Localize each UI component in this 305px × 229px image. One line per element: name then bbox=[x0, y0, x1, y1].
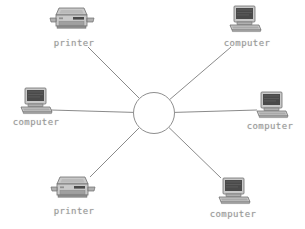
node-label: computer bbox=[247, 121, 294, 131]
computer-icon bbox=[255, 91, 289, 123]
node-label: printer bbox=[54, 38, 95, 48]
spoke-line bbox=[170, 47, 231, 99]
node-label: computer bbox=[13, 117, 60, 127]
spoke-line bbox=[175, 110, 257, 112]
spoke-line bbox=[88, 47, 139, 98]
central-hub[interactable] bbox=[133, 92, 175, 134]
spoke-line bbox=[90, 128, 139, 177]
computer-icon bbox=[217, 177, 251, 209]
computer-icon bbox=[19, 87, 53, 119]
spoke-line bbox=[51, 110, 133, 112]
node-label: computer bbox=[224, 38, 271, 48]
network-diagram: printer computer computer computer print… bbox=[0, 0, 305, 229]
spoke-line bbox=[169, 128, 221, 178]
node-label: printer bbox=[54, 206, 95, 216]
computer-icon bbox=[228, 5, 262, 37]
printer-icon bbox=[50, 175, 96, 209]
printer-icon bbox=[49, 6, 95, 40]
node-label: computer bbox=[210, 209, 257, 219]
